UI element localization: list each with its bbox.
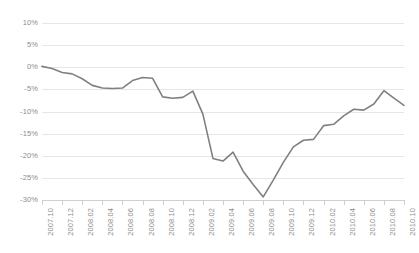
- x-axis-tick-label-text: 2009.06: [247, 208, 256, 236]
- x-axis-tick-label-text: 2008.02: [86, 208, 95, 236]
- x-axis-tick-label: 2007.12: [66, 206, 75, 234]
- line-chart: 10%5%0%-5%-10%-15%-20%-25%-30% 2007.1020…: [0, 0, 419, 253]
- x-axis-tick-label: 2009.10: [287, 206, 296, 234]
- x-axis-tick-label-text: 2009.08: [267, 208, 276, 236]
- x-axis-tick-label-text: 2008.12: [187, 208, 196, 236]
- x-axis-tick-label-text: 2010.08: [388, 208, 397, 236]
- x-axis-tick-label-text: 2010.04: [348, 208, 357, 236]
- x-axis-tick-label-text: 2010.10: [408, 208, 417, 236]
- x-axis-tick-label: 2008.04: [106, 206, 115, 234]
- x-axis-tick-label: 2007.10: [46, 206, 55, 234]
- x-axis-tick-label: 2009.12: [307, 206, 316, 234]
- x-axis-tick-label: 2008.12: [187, 206, 196, 234]
- x-axis-tick-label: 2010.02: [328, 206, 337, 234]
- x-axis-tick-label-text: 2009.10: [287, 208, 296, 236]
- series-line: [42, 66, 404, 197]
- x-axis-tick-label: 2010.04: [348, 206, 357, 234]
- x-axis-tick-label-text: 2008.06: [126, 208, 135, 236]
- x-axis-tick-label-text: 2009.12: [307, 208, 316, 236]
- x-axis-tick-label: 2009.04: [227, 206, 236, 234]
- x-axis-tick-label-text: 2007.10: [46, 208, 55, 236]
- x-axis-tick-label: 2009.08: [267, 206, 276, 234]
- x-axis-tick-label-text: 2008.08: [147, 208, 156, 236]
- x-axis-tick-label-text: 2009.04: [227, 208, 236, 236]
- x-axis-tick-label: 2008.10: [167, 206, 176, 234]
- x-axis-tick-label-text: 2008.10: [167, 208, 176, 236]
- x-axis-tick-label: 2008.06: [126, 206, 135, 234]
- x-axis-tick-label: 2009.06: [247, 206, 256, 234]
- x-axis-tick-label-text: 2010.06: [368, 208, 377, 236]
- x-axis-tick-label: 2008.08: [147, 206, 156, 234]
- x-axis-tick-label: 2008.02: [86, 206, 95, 234]
- x-axis-tick-label: 2009.02: [207, 206, 216, 234]
- x-axis-tick-label-text: 2007.12: [66, 208, 75, 236]
- x-axis-tick-label: 2010.06: [368, 206, 377, 234]
- x-axis-tick-label: 2010.10: [408, 206, 417, 234]
- x-axis-tick-label-text: 2008.04: [106, 208, 115, 236]
- x-axis-tick-labels: 2007.102007.122008.022008.042008.062008.…: [42, 206, 405, 253]
- x-axis-tick-label-text: 2010.02: [328, 208, 337, 236]
- x-axis-tick-label-text: 2009.02: [207, 208, 216, 236]
- x-axis-tick-label: 2010.08: [388, 206, 397, 234]
